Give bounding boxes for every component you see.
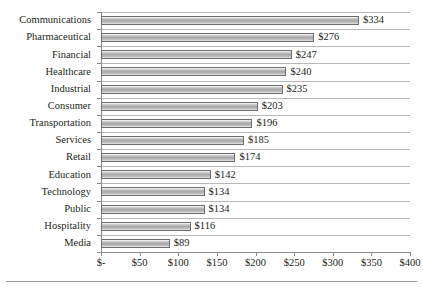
bar-row: $235	[101, 81, 410, 98]
bar	[101, 119, 252, 128]
x-axis-tick-labels: $-$50$100$150$200$250$300$350$400	[101, 258, 410, 272]
category-label: Transportation	[0, 115, 96, 132]
bar-value-label: $174	[239, 152, 260, 163]
bar-row: $134	[101, 183, 410, 200]
x-axis-tick	[217, 252, 218, 256]
category-label: Public	[0, 201, 96, 218]
bar-row: $334	[101, 12, 410, 29]
bar-value-label: $134	[209, 204, 230, 215]
bar	[101, 239, 170, 248]
bar-row: $196	[101, 115, 410, 132]
bar	[101, 187, 205, 196]
category-label: Retail	[0, 149, 96, 166]
plot-area: $334$276$247$240$235$203$196$185$174$142…	[101, 12, 410, 252]
bar-chart-figure: CommunicationsPharmaceuticalFinancialHea…	[0, 0, 423, 289]
category-label: Healthcare	[0, 63, 96, 80]
bar-row: $247	[101, 46, 410, 63]
x-axis-tick-label: $50	[132, 258, 148, 269]
x-axis-tick-label: $400	[400, 258, 421, 269]
x-axis-tick-label: $100	[168, 258, 189, 269]
bar	[101, 153, 235, 162]
x-axis-tick	[410, 252, 411, 256]
category-label: Consumer	[0, 98, 96, 115]
bar-value-label: $134	[209, 187, 230, 198]
bar	[101, 205, 205, 214]
category-label: Education	[0, 166, 96, 183]
x-axis-tick	[256, 252, 257, 256]
bar	[101, 85, 283, 94]
bottom-divider-rule	[6, 281, 417, 282]
bar-value-label: $276	[318, 32, 339, 43]
bar-row: $276	[101, 29, 410, 46]
bar-value-label: $185	[248, 135, 269, 146]
x-axis-tick	[294, 252, 295, 256]
category-label: Technology	[0, 183, 96, 200]
bar-value-label: $196	[256, 118, 277, 129]
bar-value-label: $247	[296, 50, 317, 61]
category-label: Services	[0, 132, 96, 149]
bar	[101, 170, 211, 179]
bar-row: $240	[101, 63, 410, 80]
category-label: Hospitality	[0, 218, 96, 235]
bar-row: $89	[101, 235, 410, 252]
x-axis-tick	[101, 252, 102, 256]
x-axis-tick	[371, 252, 372, 256]
bar-rows: $334$276$247$240$235$203$196$185$174$142…	[101, 12, 410, 252]
x-axis-tick	[140, 252, 141, 256]
category-label: Financial	[0, 46, 96, 63]
bar-value-label: $203	[262, 101, 283, 112]
bar	[101, 222, 191, 231]
bar-value-label: $89	[174, 238, 190, 249]
bar	[101, 50, 292, 59]
bar-value-label: $142	[215, 170, 236, 181]
bar	[101, 33, 314, 42]
x-axis-tick	[333, 252, 334, 256]
bar	[101, 16, 359, 25]
category-label: Communications	[0, 12, 96, 29]
bar-row: $142	[101, 166, 410, 183]
bar-row: $116	[101, 218, 410, 235]
bar	[101, 67, 286, 76]
bar-row: $203	[101, 98, 410, 115]
bar-row: $174	[101, 149, 410, 166]
category-label: Industrial	[0, 81, 96, 98]
bar-row: $185	[101, 132, 410, 149]
x-axis-tick	[178, 252, 179, 256]
x-axis-tick-label: $250	[284, 258, 305, 269]
category-axis-labels: CommunicationsPharmaceuticalFinancialHea…	[0, 12, 96, 252]
bar	[101, 102, 258, 111]
x-axis-tick-label: $200	[245, 258, 266, 269]
x-axis-tick-label: $150	[206, 258, 227, 269]
bar-value-label: $116	[195, 221, 216, 232]
bar-value-label: $240	[290, 67, 311, 78]
category-label: Pharmaceutical	[0, 29, 96, 46]
bar-row: $134	[101, 201, 410, 218]
bar-value-label: $235	[287, 84, 308, 95]
bar	[101, 136, 244, 145]
x-axis-tick-label: $350	[361, 258, 382, 269]
x-axis-tick-label: $300	[322, 258, 343, 269]
x-axis-tick-label: $-	[97, 258, 106, 269]
bar-value-label: $334	[363, 15, 384, 26]
category-label: Media	[0, 235, 96, 252]
